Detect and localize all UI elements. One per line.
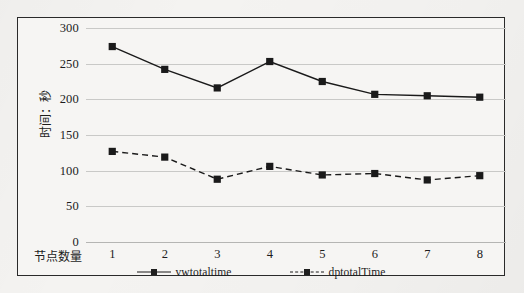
- y-tick-label: 250: [60, 56, 79, 71]
- x-tick-label: 8: [477, 247, 483, 262]
- legend-label: dptotalTime: [329, 266, 386, 278]
- data-point-marker: [266, 163, 273, 170]
- data-point-marker: [109, 43, 116, 50]
- chart-legend: vwtotaltime dptotalTime: [18, 266, 504, 278]
- y-tick-label: 300: [60, 21, 79, 36]
- data-point-marker: [161, 154, 168, 161]
- x-tick-label: 1: [109, 247, 115, 262]
- legend-item-dptotaltime: dptotalTime: [290, 266, 386, 278]
- y-tick-label: 0: [73, 235, 79, 250]
- x-tick-label: 6: [372, 247, 378, 262]
- x-tick-label: 3: [214, 247, 220, 262]
- data-point-marker: [476, 172, 483, 179]
- x-axis-title: 节点数量: [34, 247, 82, 264]
- y-axis-title: 时间：秒: [36, 90, 53, 138]
- gridline: 0: [86, 242, 506, 243]
- data-point-marker: [476, 94, 483, 101]
- data-point-marker: [371, 170, 378, 177]
- y-tick-label: 50: [66, 199, 79, 214]
- x-tick-label: 7: [424, 247, 430, 262]
- data-point-marker: [214, 176, 221, 183]
- x-tick-label: 2: [162, 247, 168, 262]
- data-point-marker: [319, 78, 326, 85]
- data-point-marker: [424, 92, 431, 99]
- data-point-marker: [266, 58, 273, 65]
- chart-screenshot: 时间：秒 节点数量 050100150200250300 12345678 vw…: [0, 0, 524, 293]
- data-point-marker: [371, 91, 378, 98]
- legend-label: vwtotaltime: [176, 266, 232, 278]
- data-point-marker: [161, 66, 168, 73]
- x-tick-label: 4: [267, 247, 273, 262]
- series-group: [86, 28, 506, 242]
- y-tick-label: 200: [60, 92, 79, 107]
- plot-area: 050100150200250300 12345678: [86, 28, 506, 242]
- legend-line-dashed-icon: [290, 267, 324, 277]
- data-point-marker: [424, 176, 431, 183]
- data-point-marker: [319, 171, 326, 178]
- x-tick-label: 5: [319, 247, 325, 262]
- data-point-marker: [109, 148, 116, 155]
- legend-item-vwtotaltime: vwtotaltime: [137, 266, 232, 278]
- chart-frame: 时间：秒 节点数量 050100150200250300 12345678 vw…: [17, 17, 505, 276]
- data-point-marker: [214, 84, 221, 91]
- y-tick-label: 150: [60, 128, 79, 143]
- legend-line-solid-icon: [137, 267, 171, 277]
- y-tick-label: 100: [60, 163, 79, 178]
